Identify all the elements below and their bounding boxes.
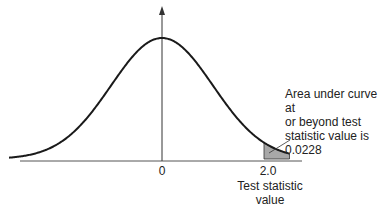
area-annotation: Area under curve at or beyond test stati…: [285, 87, 385, 157]
normal-distribution-chart: 0 2.0 Area under curve at or beyond test…: [0, 0, 385, 211]
normal-curve: [9, 38, 290, 158]
x-tick-label-0: 0: [155, 164, 169, 178]
x-tick-label-2: 2.0: [256, 164, 280, 178]
arrow-up-icon: [159, 6, 165, 15]
test-statistic-label: Test statistic value: [232, 179, 308, 207]
